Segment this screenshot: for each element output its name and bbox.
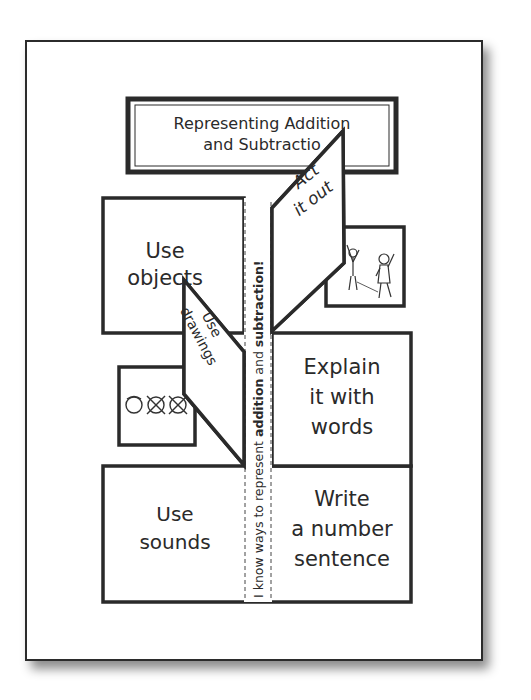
explain-label: Explain it with words	[275, 352, 409, 442]
spine-text: I know ways to represent addition and su…	[251, 260, 266, 598]
explain-line-3: words	[275, 412, 409, 442]
objects-label: Use objects	[115, 238, 215, 292]
sounds-label: Use sounds	[110, 500, 240, 556]
sounds-line-1: Use	[110, 500, 240, 528]
foldable-diagram: I know ways to represent addition and su…	[0, 0, 531, 700]
objects-line-1: Use	[115, 238, 215, 265]
objects-line-2: objects	[115, 265, 215, 292]
svg-text:Act: Act	[295, 187, 323, 206]
explain-line-1: Explain	[275, 352, 409, 382]
sounds-line-2: sounds	[110, 528, 240, 556]
number-sentence-line-1: Write	[274, 484, 410, 514]
explain-line-2: it with	[275, 382, 409, 412]
number-sentence-line-3: sentence	[274, 544, 410, 574]
title-line-2: and Subtractio	[135, 134, 389, 155]
number-sentence-label: Write a number sentence	[274, 484, 410, 574]
title-text: Representing Addition and Subtractio	[135, 113, 389, 155]
title-line-1: Representing Addition	[135, 113, 389, 134]
number-sentence-line-2: a number	[274, 514, 410, 544]
